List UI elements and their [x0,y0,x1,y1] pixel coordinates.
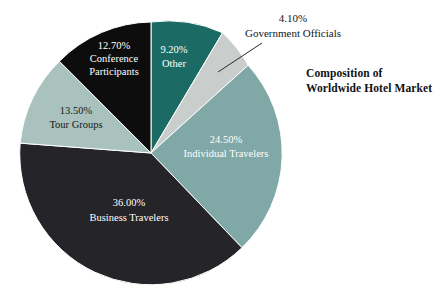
chart-title: Composition of Worldwide Hotel Market [306,66,444,95]
pie-chart-figure: 4.10% Government Officials 9.20% Other 1… [0,0,444,299]
business-value: 36.00% [113,197,146,208]
conference-name-line2: Participants [89,66,139,77]
chart-title-line1: Composition of [306,66,444,81]
chart-title-line2: Worldwide Hotel Market [306,81,444,96]
pie-chart-svg: 4.10% Government Officials 9.20% Other 1… [0,0,444,299]
tour-name: Tour Groups [49,119,102,130]
government-officials-callout: 4.10% Government Officials [245,12,341,39]
business-name: Business Travelers [89,212,168,223]
conference-name-line1: Conference [90,53,139,64]
conference-value: 12.70% [98,40,131,51]
individual-name: Individual Travelers [184,148,269,159]
other-value: 9.20% [160,44,187,55]
government-officials-value: 4.10% [279,12,307,24]
other-name: Other [162,58,186,69]
tour-value: 13.50% [60,105,93,116]
government-officials-name: Government Officials [245,27,341,39]
individual-value: 24.50% [210,134,243,145]
